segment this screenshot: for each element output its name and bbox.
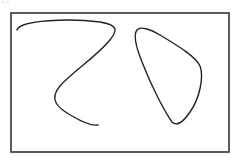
sketch-figure [0,0,237,165]
open-curve-z-shape [17,20,115,125]
drawing-canvas: ·□ [0,0,237,165]
figure-frame [11,13,229,152]
closed-loop-teardrop [135,28,201,124]
